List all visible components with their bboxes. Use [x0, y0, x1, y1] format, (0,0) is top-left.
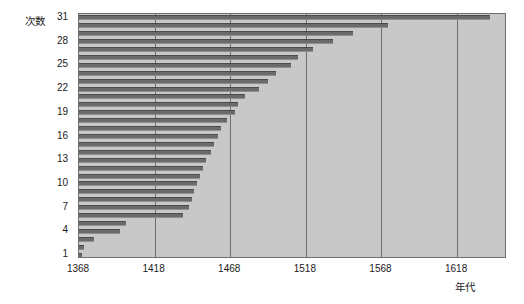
chart-container: 次数 1471013161922252831 13681418146815181… — [0, 0, 524, 304]
bar — [79, 150, 211, 155]
bar — [79, 55, 298, 60]
bar — [79, 166, 203, 171]
bar — [79, 71, 276, 76]
y-tick-19: 19 — [57, 107, 68, 117]
bar — [79, 205, 189, 210]
x-tick-1468: 1468 — [209, 264, 249, 274]
bar — [79, 181, 197, 186]
bar — [79, 253, 82, 258]
y-tick-1: 1 — [62, 249, 68, 259]
bar — [79, 189, 194, 194]
bar — [79, 39, 333, 44]
y-tick-31: 31 — [57, 12, 68, 22]
x-tick-1518: 1518 — [285, 264, 325, 274]
x-gridline — [457, 14, 458, 257]
bar — [79, 142, 214, 147]
bar — [79, 94, 245, 99]
bar — [79, 237, 94, 242]
bar — [79, 221, 126, 226]
y-tick-16: 16 — [57, 131, 68, 141]
y-tick-22: 22 — [57, 83, 68, 93]
bar — [79, 47, 313, 52]
bar — [79, 118, 227, 123]
plot-area — [78, 13, 506, 258]
bar — [79, 126, 221, 131]
y-tick-4: 4 — [62, 225, 68, 235]
x-tick-1418: 1418 — [134, 264, 174, 274]
bar — [79, 110, 235, 115]
y-tick-13: 13 — [57, 154, 68, 164]
bar — [79, 15, 490, 20]
bar — [79, 197, 192, 202]
y-tick-28: 28 — [57, 36, 68, 46]
bar — [79, 79, 268, 84]
x-axis-title: 年代 — [455, 282, 475, 293]
bar — [79, 63, 291, 68]
bar — [79, 23, 388, 28]
y-axis-tick-labels: 1471013161922252831 — [0, 0, 78, 304]
bar — [79, 245, 84, 250]
y-tick-10: 10 — [57, 178, 68, 188]
y-tick-7: 7 — [62, 202, 68, 212]
bar — [79, 158, 206, 163]
bar — [79, 134, 218, 139]
bar — [79, 174, 200, 179]
x-tick-1368: 1368 — [58, 264, 98, 274]
x-tick-1568: 1568 — [360, 264, 400, 274]
x-tick-1618: 1618 — [436, 264, 476, 274]
bar — [79, 213, 183, 218]
bar — [79, 102, 238, 107]
bar — [79, 229, 120, 234]
y-tick-25: 25 — [57, 59, 68, 69]
x-gridline — [381, 14, 382, 257]
bar — [79, 31, 353, 36]
bar — [79, 87, 259, 92]
